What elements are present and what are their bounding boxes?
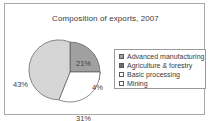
pie-value-label-mining: 43% (13, 80, 28, 89)
legend-item-advanced-manufacturing[interactable]: Advanced manufacturing (118, 52, 202, 61)
legend-item-basic-processing[interactable]: Basic processing (118, 70, 202, 79)
legend-swatch-icon (119, 72, 124, 77)
pie-value-label-agriculture-forestry: 4% (92, 83, 103, 92)
chart-legend: Advanced manufacturing Agriculture & for… (114, 49, 206, 89)
legend-label: Basic processing (127, 70, 180, 79)
legend-swatch-icon (119, 81, 124, 86)
legend-label: Mining (127, 79, 148, 88)
pie-value-label-basic-processing: 31% (76, 114, 91, 121)
pie-value-label-advanced-manufacturing: 21% (76, 59, 91, 68)
legend-swatch-icon (119, 54, 124, 59)
chart-frame: Composition of exports, 2007 21% 4% 31% … (4, 3, 205, 115)
legend-item-mining[interactable]: Mining (118, 79, 202, 88)
pie-chart-area: 21% 4% 31% 43% (6, 22, 114, 115)
legend-label: Advanced manufacturing (127, 52, 204, 61)
pie-chart-svg (6, 22, 114, 115)
chart-figure: Composition of exports, 2007 21% 4% 31% … (0, 0, 211, 121)
legend-swatch-icon (119, 63, 124, 68)
legend-item-agriculture-forestry[interactable]: Agriculture & forestry (118, 61, 202, 70)
legend-label: Agriculture & forestry (127, 61, 192, 70)
